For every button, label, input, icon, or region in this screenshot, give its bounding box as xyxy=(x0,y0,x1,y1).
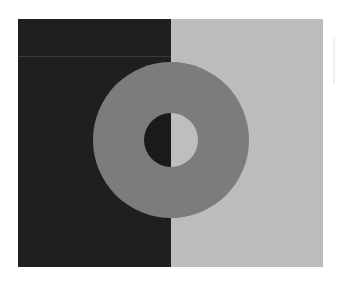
ring-hole xyxy=(144,113,198,167)
edge-artifact xyxy=(333,38,335,84)
seam-line xyxy=(18,56,171,57)
ring-hole-light-half xyxy=(171,113,198,167)
ring-hole-dark-half xyxy=(144,113,171,167)
